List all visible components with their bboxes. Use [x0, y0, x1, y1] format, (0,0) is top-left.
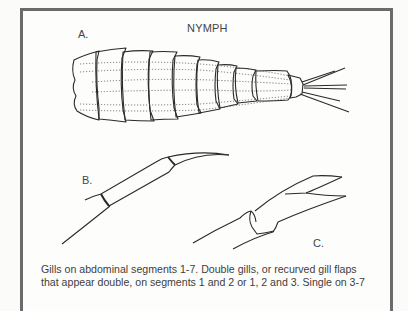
figure-caption: Gills on abdominal segments 1-7. Double … — [41, 263, 391, 288]
caption-line-2: that appear double, on segments 1 and 2 … — [41, 276, 365, 288]
claw-c-drawing — [193, 176, 346, 249]
caption-line-1: Gills on abdominal segments 1-7. Double … — [41, 263, 357, 275]
claw-b-drawing — [62, 153, 229, 244]
nymph-abdomen-drawing — [73, 48, 349, 122]
